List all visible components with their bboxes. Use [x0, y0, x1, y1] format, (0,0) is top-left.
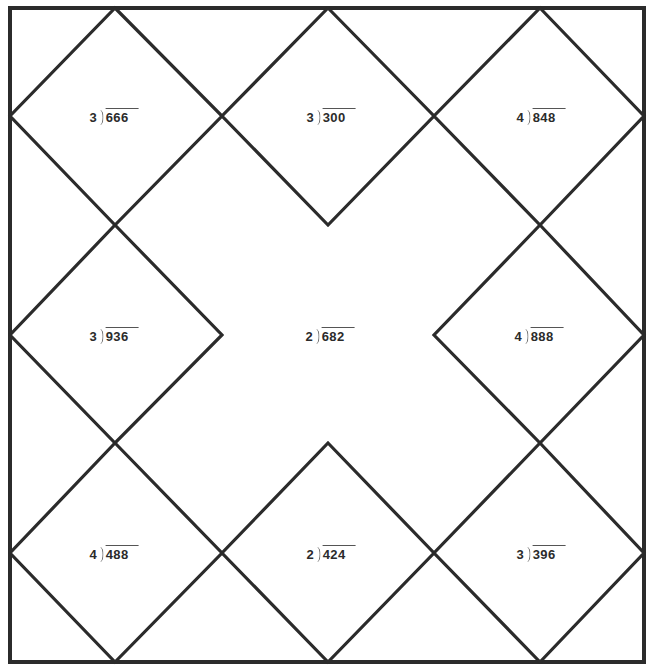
division-worksheet: 3 666 3 300 4 848 3 936 2 682 4 888 4 48…: [0, 0, 651, 668]
divisor: 3: [307, 111, 315, 124]
dividend: 936: [106, 327, 139, 343]
division-bracket-icon: [525, 110, 531, 125]
division-bracket-icon: [98, 110, 104, 125]
division-bracket-icon: [523, 329, 529, 344]
dividend: 424: [323, 545, 356, 561]
problem-r1c0: 3 936: [90, 327, 139, 343]
divisor: 2: [306, 330, 314, 343]
division-bracket-icon: [98, 329, 104, 344]
problem-r2c0: 4 488: [90, 545, 139, 561]
division-bracket-icon: [315, 547, 321, 562]
problem-r2c2: 3 396: [517, 545, 566, 561]
divisor: 3: [517, 548, 525, 561]
divisor: 4: [517, 111, 525, 124]
dividend: 300: [323, 108, 356, 124]
problem-r0c1: 3 300: [307, 108, 356, 124]
division-bracket-icon: [315, 110, 321, 125]
divisor: 2: [307, 548, 315, 561]
division-bracket-icon: [525, 547, 531, 562]
dividend: 848: [533, 108, 566, 124]
division-bracket-icon: [314, 329, 320, 344]
divisor: 4: [515, 330, 523, 343]
problem-r0c0: 3 666: [90, 108, 139, 124]
dividend: 666: [106, 108, 139, 124]
problem-r1c2: 4 888: [515, 327, 564, 343]
problem-r2c1: 2 424: [307, 545, 356, 561]
divisor: 3: [90, 111, 98, 124]
dividend: 888: [531, 327, 564, 343]
problem-r1c1: 2 682: [306, 327, 355, 343]
division-bracket-icon: [98, 547, 104, 562]
dividend: 682: [322, 327, 355, 343]
divisor: 4: [90, 548, 98, 561]
dividend: 488: [106, 545, 139, 561]
problem-r0c2: 4 848: [517, 108, 566, 124]
dividend: 396: [533, 545, 566, 561]
divisor: 3: [90, 330, 98, 343]
